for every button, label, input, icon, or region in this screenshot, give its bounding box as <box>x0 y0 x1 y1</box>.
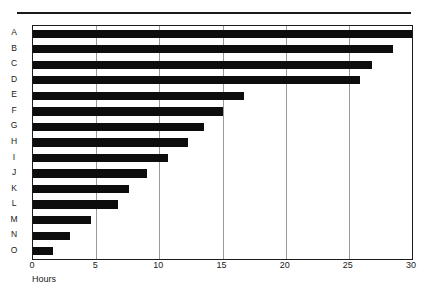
bar <box>33 45 393 53</box>
x-tick-label: 15 <box>216 260 226 271</box>
bar-row <box>33 57 412 73</box>
bar-row <box>33 119 412 135</box>
bar <box>33 138 188 146</box>
bar <box>33 107 223 115</box>
y-axis-label-a: A <box>0 28 28 37</box>
bars-layer <box>33 26 412 259</box>
bar <box>33 169 147 177</box>
bar-row <box>33 42 412 58</box>
y-axis-label-h: H <box>0 137 28 146</box>
plot-area <box>32 25 413 260</box>
y-axis-label-f: F <box>0 106 28 115</box>
bar <box>33 185 129 193</box>
y-axis-label-e: E <box>0 90 28 99</box>
y-axis-label-k: K <box>0 184 28 193</box>
bar <box>33 92 244 100</box>
title-divider <box>17 12 411 14</box>
x-tick-label: 0 <box>29 260 34 271</box>
y-axis-label-b: B <box>0 44 28 53</box>
x-tick-label: 20 <box>280 260 290 271</box>
x-tick-label: 5 <box>93 260 98 271</box>
bar-row <box>33 104 412 120</box>
x-tick-label: 25 <box>343 260 353 271</box>
bar <box>33 216 91 224</box>
y-axis-label-m: M <box>0 215 28 224</box>
bar <box>33 247 53 255</box>
bar-row <box>33 228 412 244</box>
bar <box>33 200 118 208</box>
bar <box>33 123 204 131</box>
y-axis-label-l: L <box>0 199 28 208</box>
bar-row <box>33 150 412 166</box>
y-axis-label-c: C <box>0 59 28 68</box>
bar-row <box>33 88 412 104</box>
chart-title <box>17 0 411 4</box>
x-axis-title: Hours <box>32 274 56 285</box>
bar <box>33 61 372 69</box>
y-axis-label-d: D <box>0 75 28 84</box>
bar-chart: ABCDEFGHIJKLMNO 051015202530 Hours <box>0 0 426 303</box>
x-tick-label: 10 <box>153 260 163 271</box>
bar-row <box>33 135 412 151</box>
bar <box>33 76 360 84</box>
y-axis-label-n: N <box>0 230 28 239</box>
x-tick-label: 30 <box>406 260 416 271</box>
bar-row <box>33 212 412 228</box>
bar <box>33 154 168 162</box>
bar-row <box>33 73 412 89</box>
bar-row <box>33 166 412 182</box>
y-axis-label-o: O <box>0 246 28 255</box>
bar-row <box>33 197 412 213</box>
y-axis-category-labels: ABCDEFGHIJKLMNO <box>0 25 28 258</box>
bar <box>33 30 412 38</box>
bar-row <box>33 181 412 197</box>
bar <box>33 232 70 240</box>
y-axis-label-g: G <box>0 121 28 130</box>
y-axis-label-i: I <box>0 153 28 162</box>
y-axis-label-j: J <box>0 168 28 177</box>
x-axis-tick-labels: 051015202530 <box>32 260 411 278</box>
bar-row <box>33 243 412 259</box>
bar-row <box>33 26 412 42</box>
